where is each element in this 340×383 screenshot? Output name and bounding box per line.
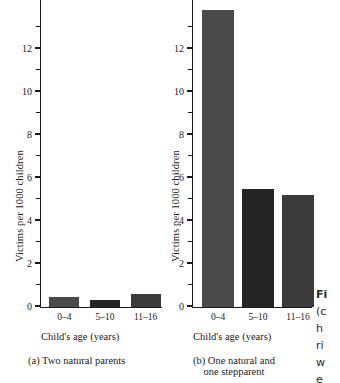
x-tick-label: 5–10	[249, 312, 268, 322]
y-tick-major-12	[187, 47, 194, 48]
y-tick-minor-9	[36, 112, 40, 113]
y-tick-minor-5	[36, 198, 40, 199]
side-caption-line: e	[316, 371, 340, 383]
y-tick-minor-1	[36, 284, 40, 285]
bar	[49, 297, 79, 307]
y-tick-label-12: 12	[22, 44, 32, 54]
y-tick-major-10	[35, 90, 42, 91]
y-tick-major-10	[187, 90, 194, 91]
y-tick-major-12	[35, 47, 42, 48]
side-caption-line: w	[316, 354, 340, 371]
y-tick-label-6: 6	[179, 173, 184, 183]
y-tick-major-0	[187, 305, 194, 306]
y-tick-major-6	[187, 176, 194, 177]
panel-caption-b-line1: (b) One natural and	[193, 355, 275, 366]
bar	[242, 189, 274, 306]
y-tick-major-8	[35, 133, 42, 134]
x-axis-title-a: Child's age (years)	[41, 331, 119, 342]
side-caption-line: h	[316, 320, 340, 337]
panel-caption-a: (a) Two natural parents	[28, 355, 125, 366]
y-tick-minor-3	[188, 241, 192, 242]
y-tick-label-0: 0	[179, 302, 184, 312]
side-caption-line: Fi	[316, 286, 340, 303]
y-axis-title-a: Victims per 1000 children	[14, 150, 25, 262]
y-tick-major-2	[35, 262, 42, 263]
y-tick-minor-7	[36, 155, 40, 156]
y-tick-major-4	[35, 219, 42, 220]
y-tick-minor-11	[188, 69, 192, 70]
y-tick-major-8	[187, 133, 194, 134]
y-tick-major-0	[35, 305, 42, 306]
y-tick-minor-1	[188, 284, 192, 285]
plot-area-a: 024681012	[40, 0, 162, 308]
x-tick-label: 5–10	[96, 312, 115, 322]
y-tick-label-2: 2	[27, 259, 32, 269]
y-tick-major-4	[187, 219, 194, 220]
figure-two-panel-bar-chart: Victims per 1000 children 024681012 Chil…	[0, 0, 340, 383]
bar	[90, 300, 120, 306]
y-tick-major-2	[187, 262, 194, 263]
bar	[202, 10, 234, 307]
side-caption-line: ri	[316, 337, 340, 354]
panel-caption-b: (b) One natural and one stepparent	[193, 355, 275, 377]
plot-area-b: 024681012	[192, 0, 312, 308]
y-tick-label-8: 8	[27, 130, 32, 140]
y-tick-label-10: 10	[174, 87, 184, 97]
panel-caption-b-line2: one stepparent	[193, 366, 275, 377]
x-tick-label: 0–4	[211, 312, 225, 322]
y-tick-minor-9	[188, 112, 192, 113]
y-tick-minor-13	[188, 26, 192, 27]
y-tick-label-8: 8	[179, 130, 184, 140]
x-tick-label: 0–4	[57, 312, 71, 322]
y-tick-label-4: 4	[27, 216, 32, 226]
x-axis-line-b	[192, 307, 312, 308]
y-tick-minor-7	[188, 155, 192, 156]
chart-panel-a: Victims per 1000 children 024681012 Chil…	[0, 0, 170, 383]
y-tick-label-12: 12	[174, 44, 184, 54]
bar	[131, 294, 161, 307]
x-axis-title-b: Child's age (years)	[193, 331, 271, 342]
y-tick-major-6	[35, 176, 42, 177]
figure-side-caption-truncated: Fi(chriwe	[316, 286, 340, 383]
side-caption-line: (c	[316, 303, 340, 320]
x-tick-label: 11–16	[134, 312, 157, 322]
y-axis-title-b: Victims per 1000 children	[170, 150, 181, 262]
chart-panel-b: Victims per 1000 children 024681012 Chil…	[160, 0, 320, 383]
y-tick-label-0: 0	[27, 302, 32, 312]
x-axis-line-a	[40, 307, 162, 308]
y-tick-label-2: 2	[179, 259, 184, 269]
y-tick-minor-3	[36, 241, 40, 242]
bar	[282, 195, 314, 307]
y-tick-minor-5	[188, 198, 192, 199]
y-tick-minor-11	[36, 69, 40, 70]
y-tick-label-6: 6	[27, 173, 32, 183]
x-tick-label: 11–16	[286, 312, 309, 322]
panel-caption-a-line1: (a) Two natural parents	[28, 355, 125, 366]
y-tick-label-10: 10	[22, 87, 32, 97]
y-tick-label-4: 4	[179, 216, 184, 226]
y-tick-minor-13	[36, 26, 40, 27]
